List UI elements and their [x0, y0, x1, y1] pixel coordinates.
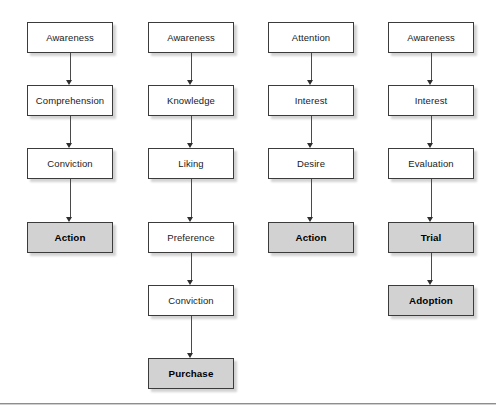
- flow-arrow-line: [311, 116, 312, 143]
- stage-label: Conviction: [168, 296, 213, 306]
- stage-box[interactable]: Desire: [268, 148, 354, 179]
- stage-label: Awareness: [407, 33, 455, 43]
- stage-box[interactable]: Awareness: [148, 22, 234, 53]
- stage-label: Desire: [297, 159, 325, 169]
- flow-arrow-line: [431, 253, 432, 280]
- diagram-canvas: AwarenessComprehensionConvictionActionAw…: [0, 0, 496, 416]
- stage-label: Purchase: [169, 369, 214, 379]
- stage-label: Preference: [167, 233, 214, 243]
- column-2: AwarenessKnowledgeLikingPreferenceConvic…: [131, 0, 251, 416]
- flow-arrow-line: [191, 316, 192, 353]
- flow-arrow-line: [431, 116, 432, 143]
- stage-box-outcome[interactable]: Action: [268, 222, 354, 253]
- column-3: AttentionInterestDesireAction: [251, 0, 371, 416]
- stage-label: Comprehension: [36, 96, 104, 106]
- stage-box[interactable]: Comprehension: [27, 85, 113, 116]
- stage-box[interactable]: Knowledge: [148, 85, 234, 116]
- column-4: AwarenessInterestEvaluationTrialAdoption: [371, 0, 491, 416]
- stage-box[interactable]: Interest: [268, 85, 354, 116]
- stage-box[interactable]: Interest: [388, 85, 474, 116]
- stage-box-outcome[interactable]: Action: [27, 222, 113, 253]
- flow-arrow-line: [70, 116, 71, 143]
- stage-label: Evaluation: [408, 159, 453, 169]
- flow-arrow-line: [191, 253, 192, 280]
- stage-label: Action: [54, 233, 85, 243]
- stage-box-outcome[interactable]: Trial: [388, 222, 474, 253]
- stage-box[interactable]: Conviction: [27, 148, 113, 179]
- flow-arrow-line: [191, 53, 192, 80]
- column-1: AwarenessComprehensionConvictionAction: [10, 0, 130, 416]
- stage-label: Trial: [421, 233, 442, 243]
- stage-label: Liking: [178, 159, 203, 169]
- stage-label: Interest: [295, 96, 327, 106]
- stage-label: Adoption: [409, 296, 453, 306]
- stage-box[interactable]: Liking: [148, 148, 234, 179]
- stage-label: Conviction: [47, 159, 92, 169]
- stage-box[interactable]: Conviction: [148, 285, 234, 316]
- stage-box[interactable]: Evaluation: [388, 148, 474, 179]
- flow-arrow-line: [70, 53, 71, 80]
- stage-label: Action: [295, 233, 326, 243]
- baseline-rule: [0, 403, 496, 405]
- flow-arrow-line: [311, 179, 312, 217]
- stage-box[interactable]: Awareness: [27, 22, 113, 53]
- stage-label: Knowledge: [167, 96, 215, 106]
- flow-arrow-line: [311, 53, 312, 80]
- stage-label: Awareness: [46, 33, 94, 43]
- flow-arrow-line: [70, 179, 71, 217]
- flow-arrow-line: [191, 116, 192, 143]
- stage-box[interactable]: Preference: [148, 222, 234, 253]
- stage-label: Interest: [415, 96, 447, 106]
- stage-box[interactable]: Attention: [268, 22, 354, 53]
- stage-box-outcome[interactable]: Adoption: [388, 285, 474, 316]
- flow-arrow-line: [431, 179, 432, 217]
- stage-box-outcome[interactable]: Purchase: [148, 358, 234, 389]
- stage-label: Awareness: [167, 33, 215, 43]
- flow-arrow-line: [191, 179, 192, 217]
- stage-box[interactable]: Awareness: [388, 22, 474, 53]
- stage-label: Attention: [292, 33, 330, 43]
- flow-arrow-line: [431, 53, 432, 80]
